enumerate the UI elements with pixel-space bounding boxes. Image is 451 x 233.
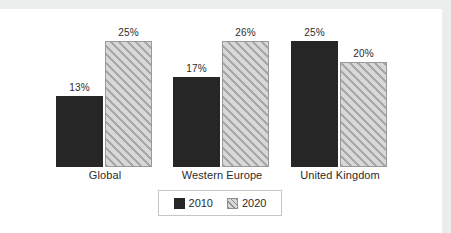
- legend-item-2020[interactable]: 2020: [227, 197, 266, 209]
- bar-value-label: 25%: [118, 27, 138, 39]
- bar-rect-hatched[interactable]: [340, 62, 387, 167]
- bar-group-global-bars: 13% 25%: [56, 27, 152, 167]
- bar-western-europe-2020[interactable]: 26%: [222, 27, 269, 167]
- solid-dark-swatch-icon: [174, 198, 185, 209]
- bar-rect-solid[interactable]: [291, 41, 338, 167]
- legend-label-2020: 2020: [242, 197, 266, 209]
- bar-rect-hatched[interactable]: [222, 41, 269, 167]
- page-frame-right-band: [442, 0, 451, 233]
- chart-screenshot: 13% 25% Global 17% 26%: [0, 0, 451, 233]
- bar-global-2010[interactable]: 13%: [56, 27, 103, 167]
- bar-united-kingdom-2010[interactable]: 25%: [291, 27, 338, 167]
- bar-value-label: 25%: [304, 27, 324, 39]
- bar-global-2020[interactable]: 25%: [105, 27, 152, 167]
- category-label-western-europe: Western Europe: [173, 169, 271, 181]
- chart-legend: 2010 2020: [158, 190, 282, 216]
- hatched-gray-swatch-icon: [227, 198, 238, 209]
- bar-value-label: 26%: [235, 27, 255, 39]
- legend-label-2010: 2010: [189, 197, 213, 209]
- bar-western-europe-2010[interactable]: 17%: [173, 27, 220, 167]
- bar-value-label: 13%: [69, 82, 89, 94]
- bar-group-united-kingdom-bars: 25% 20%: [291, 27, 387, 167]
- category-label-global: Global: [56, 169, 154, 181]
- bar-chart-plot-area: 13% 25% Global 17% 26%: [0, 0, 442, 233]
- category-label-united-kingdom: United Kingdom: [291, 169, 389, 181]
- bar-group-western-europe-bars: 17% 26%: [173, 27, 269, 167]
- bar-rect-hatched[interactable]: [105, 41, 152, 167]
- legend-item-2010[interactable]: 2010: [174, 197, 213, 209]
- bar-value-label: 17%: [186, 63, 206, 75]
- bar-rect-solid[interactable]: [56, 96, 103, 167]
- cropped-caption-sliver: [250, 227, 440, 233]
- bar-value-label: 20%: [353, 48, 373, 60]
- bar-united-kingdom-2020[interactable]: 20%: [340, 27, 387, 167]
- bar-rect-solid[interactable]: [173, 77, 220, 167]
